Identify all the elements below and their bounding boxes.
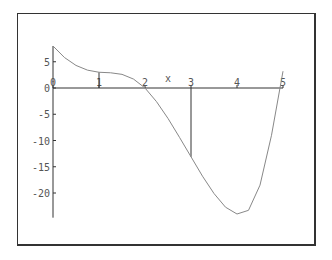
y-tick-label: 5 xyxy=(44,57,50,68)
y-tick-label: 0 xyxy=(44,83,50,94)
x-tick-label: 0 xyxy=(50,77,56,88)
series-line xyxy=(53,46,283,214)
x-axis-label: x xyxy=(165,73,171,84)
y-tick-label: -5 xyxy=(38,109,50,120)
y-tick-label: -10 xyxy=(32,136,50,147)
y-tick-label: -20 xyxy=(32,188,50,199)
line-plot: 01234550-5-10-15-20x xyxy=(0,0,332,260)
x-tick-label: 3 xyxy=(188,77,194,88)
y-tick-label: -15 xyxy=(32,162,50,173)
x-tick-label: 4 xyxy=(234,77,240,88)
